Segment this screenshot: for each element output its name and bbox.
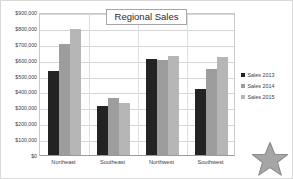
legend-swatch [241,73,245,77]
x-axis: NortheastSoutheastNorthwestSouthwest [39,158,235,172]
legend-item-label: Sales 2014 [248,83,275,89]
bar [48,71,59,155]
x-axis-tick-label: Northwest [149,158,174,166]
legend-item[interactable]: Sales 2013 [241,72,291,78]
bar [168,56,179,155]
bar [59,44,70,155]
bar [195,89,206,155]
chart-title: Regional Sales [106,9,188,25]
bar [217,57,228,156]
category-separator [187,14,188,155]
y-axis-tick-label: $600,000 [1,58,37,64]
bar [146,59,157,155]
y-axis-tick-label: $400,000 [1,89,37,95]
bar [97,106,108,155]
y-axis-tick-label: $200,000 [1,121,37,127]
x-axis-tick-label: Southeast [100,158,125,166]
legend-swatch [241,95,245,99]
chart-container: Regional Sales $0$100,000$200,000$300,00… [0,0,293,179]
y-axis-tick-label: $900,000 [1,10,37,16]
bar [108,98,119,155]
plot-area [39,13,235,156]
legend-swatch [241,84,245,88]
bar [119,103,130,155]
legend-item-label: Sales 2013 [248,72,275,78]
bar [206,69,217,155]
y-axis-tick-label: $800,000 [1,26,37,32]
category-separator [138,14,139,155]
chart-legend: Sales 2013Sales 2014Sales 2015 [241,72,291,105]
y-axis-tick-label: $100,000 [1,137,37,143]
x-axis-tick-label: Southwest [197,158,223,166]
bar [157,60,168,155]
legend-item-label: Sales 2015 [248,94,275,100]
y-axis-tick-label: $700,000 [1,42,37,48]
legend-item[interactable]: Sales 2014 [241,83,291,89]
y-axis-tick-label: $300,000 [1,105,37,111]
x-axis-tick-label: Northeast [51,158,75,166]
bar [70,29,81,155]
category-separator [89,14,90,155]
y-axis-tick-label: $0 [1,153,37,159]
star-icon [251,141,289,177]
y-axis: $0$100,000$200,000$300,000$400,000$500,0… [1,13,37,156]
legend-item[interactable]: Sales 2015 [241,94,291,100]
y-axis-tick-label: $500,000 [1,74,37,80]
